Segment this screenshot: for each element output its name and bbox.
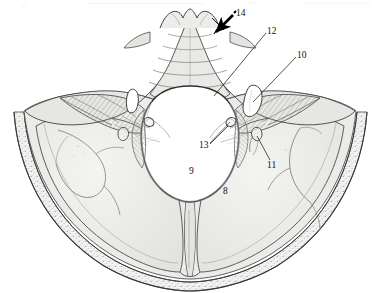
scan-artifacts [22,3,373,10]
label-12: 12 [267,27,277,37]
label-11: 11 [267,161,276,171]
label-8: 8 [223,187,228,197]
jugular-foramen-left [126,89,138,113]
label-10: 10 [297,51,307,61]
label-13: 13 [199,141,209,151]
anatomy-illustration [0,0,381,293]
label-14: 14 [236,9,246,19]
anatomical-figure: 14 12 10 13 11 9 8 [0,0,381,293]
label-9: 9 [189,167,194,177]
